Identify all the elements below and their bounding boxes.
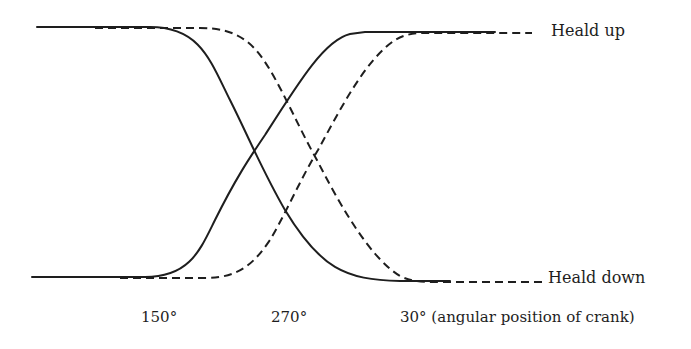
- heald-down-label: Heald down: [548, 270, 645, 286]
- heald-up-label: Heald up: [551, 23, 625, 39]
- solid-rising-curve: [32, 32, 495, 277]
- dashed-falling-curve: [95, 28, 545, 282]
- solid-falling-curve: [37, 27, 450, 281]
- tick-label-270: 270°: [271, 310, 307, 325]
- heald-timing-diagram: [0, 0, 691, 349]
- dashed-rising-curve: [120, 33, 532, 278]
- tick-label-30-crank: 30° (angular position of crank): [400, 310, 635, 325]
- tick-label-150: 150°: [141, 310, 177, 325]
